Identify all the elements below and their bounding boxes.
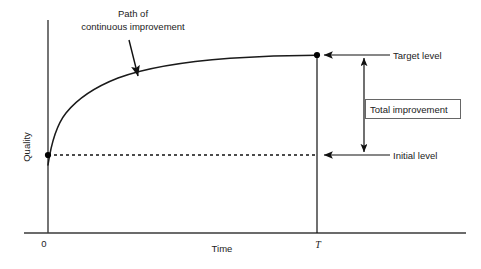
y-axis-label: Quality (21, 132, 32, 162)
initial-level-label: Initial level (393, 150, 437, 161)
x-tick-label-T: T (315, 239, 322, 250)
improvement-curve (48, 55, 317, 165)
target-level-label: Target level (393, 50, 442, 61)
initial-level-point (45, 152, 51, 158)
x-axis-label: Time (212, 243, 233, 254)
target-level-point (314, 52, 320, 58)
curve-note-line2: continuous improvement (81, 21, 185, 32)
curve-note-line1: Path of (118, 8, 148, 19)
total-improvement-label: Total improvement (370, 104, 448, 115)
quality-improvement-diagram: Quality Time 0 T Path of continuous impr… (0, 0, 481, 269)
x-tick-label-zero: 0 (41, 238, 46, 249)
curve-note-leader-arrow (129, 40, 138, 76)
